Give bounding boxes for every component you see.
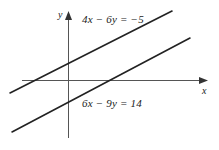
y-axis-label: y [58, 9, 62, 20]
equation-label-bottom: 6x − 9y = 14 [82, 97, 142, 109]
line-6x-9y-eq-14 [12, 38, 190, 132]
graph-figure: y x 4x − 6y = −5 6x − 9y = 14 [0, 0, 219, 150]
x-axis-arrowhead-icon [199, 77, 208, 84]
y-axis-arrowhead-icon [65, 11, 72, 20]
equation-label-top: 4x − 6y = −5 [82, 13, 144, 25]
x-axis-label: x [202, 85, 206, 96]
y-axis [65, 11, 72, 138]
